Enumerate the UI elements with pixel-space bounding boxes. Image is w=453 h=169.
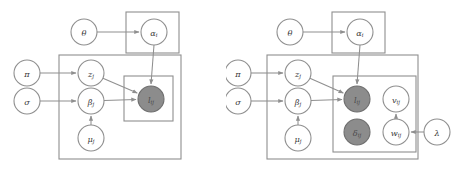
node-mu: μj [285,125,311,151]
node-sigma-label: σ [24,97,30,107]
node-beta: βj [78,88,104,114]
figure-root: θαiπσzjβjμjlij θαiπσzjβjμjlijvijδijwijλ [0,0,453,169]
edge-alpha-to-l [151,45,154,84]
node-z: zj [285,60,311,86]
edge-z-to-l [103,78,137,93]
node-pi: π [14,60,40,86]
panel-basic-model: θαiπσzjβjμjlij [0,0,226,169]
node-w: wij [383,119,409,145]
node-l: lij [344,86,370,112]
node-theta: θ [71,19,97,45]
node-sigma: σ [226,88,251,114]
node-z: zj [78,60,104,86]
node-l: lij [138,86,164,112]
node-beta: βj [285,88,311,114]
node-mu: μj [78,125,104,151]
panel-extended-model: θαiπσzjβjμjlijvijδijwijλ [226,0,453,169]
diagram-basic-model: θαiπσzjβjμjlij [0,0,226,169]
edge-beta-to-l [311,100,342,101]
node-pi-label: π [23,69,30,79]
edge-alpha-to-l [357,45,360,84]
edge-z-to-l [310,78,343,93]
node-v: vij [383,86,409,112]
node-sigma-label: σ [235,97,241,107]
node-lambda-label: λ [433,128,439,138]
node-alpha: αi [347,19,373,45]
node-sigma: σ [14,88,40,114]
node-theta-label: θ [82,28,87,38]
node-pi: π [226,60,251,86]
node-pi-label: π [234,69,241,79]
node-delta: δij [344,119,370,145]
node-lambda: λ [424,119,450,145]
diagram-extended-model: θαiπσzjβjμjlijvijδijwijλ [226,0,453,169]
node-alpha: αi [141,19,167,45]
plate-j [59,55,181,159]
edge-beta-to-l [104,99,136,100]
node-theta: θ [277,19,303,45]
node-theta-label: θ [288,28,293,38]
